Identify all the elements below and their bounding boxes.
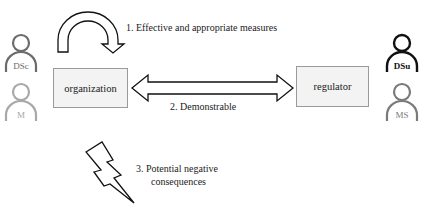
- organization-label: organization: [64, 83, 116, 94]
- consequences-label-line2: consequences: [151, 176, 206, 188]
- curved-arrow-icon: [58, 12, 124, 53]
- consequences-label-line1: 3. Potential negative: [136, 163, 218, 175]
- measures-label: 1. Effective and appropriate measures: [126, 22, 277, 34]
- actor-label-m: M: [0, 110, 43, 120]
- organization-box: organization: [53, 68, 128, 108]
- double-arrow-icon: [132, 75, 293, 101]
- actor-label-dsc: DSc: [0, 61, 43, 71]
- actor-label-dsu: DSu: [380, 61, 424, 71]
- lightning-bolt-icon: [86, 142, 134, 203]
- regulator-box: regulator: [296, 66, 369, 107]
- demonstrable-label: 2. Demonstrable: [170, 101, 236, 113]
- regulator-label: regulator: [314, 81, 352, 92]
- actor-label-ms: MS: [380, 110, 424, 120]
